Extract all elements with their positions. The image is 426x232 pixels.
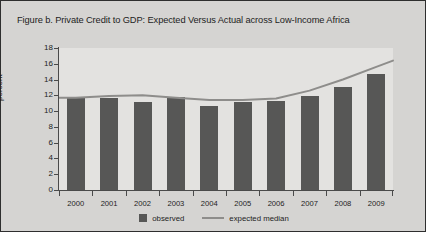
x-tick-label-2009: 2009 (361, 199, 391, 208)
x-axis-labels: 2000200120022003200420052006200720082009 (59, 191, 393, 207)
x-tick-label-2000: 2000 (61, 199, 91, 208)
y-tick-label: 10 (37, 107, 53, 115)
x-tick-label-2007: 2007 (295, 199, 325, 208)
y-tick (54, 174, 59, 175)
y-axis-labels: 024681012141618 (37, 48, 53, 190)
x-tick-label-2008: 2008 (328, 199, 358, 208)
x-tick-label-2005: 2005 (228, 199, 258, 208)
y-tick (54, 143, 59, 144)
legend-line-icon (202, 217, 224, 219)
expected-median-line (59, 48, 393, 190)
y-tick (54, 48, 59, 49)
y-tick (54, 80, 59, 81)
legend-item-observed: observed (139, 214, 184, 223)
x-tick-label-2004: 2004 (194, 199, 224, 208)
x-tick-label-2006: 2006 (261, 199, 291, 208)
x-tick-label-2002: 2002 (128, 199, 158, 208)
legend-label-expected-median: expected median (229, 214, 288, 223)
y-tick-label: 0 (37, 186, 53, 194)
legend-square-icon (139, 214, 147, 222)
y-tick (54, 158, 59, 159)
x-tick-label-2003: 2003 (161, 199, 191, 208)
figure-title: Figure b. Private Credit to GDP: Expecte… (17, 15, 350, 25)
legend-item-expected-median: expected median (202, 214, 288, 223)
y-axis-title: percent (0, 74, 4, 101)
y-tick-label: 18 (37, 44, 53, 52)
y-tick-label: 6 (37, 139, 53, 147)
y-tick-label: 16 (37, 60, 53, 68)
y-tick (54, 111, 59, 112)
y-tick-label: 14 (37, 76, 53, 84)
chart-legend: observed expected median (1, 211, 426, 225)
y-tick (54, 64, 59, 65)
y-tick-label: 2 (37, 170, 53, 178)
plot-area (59, 48, 393, 190)
y-tick (54, 95, 59, 96)
y-tick-label: 12 (37, 91, 53, 99)
y-tick-label: 8 (37, 123, 53, 131)
y-tick (54, 127, 59, 128)
legend-label-observed: observed (152, 214, 184, 223)
y-tick-label: 4 (37, 154, 53, 162)
x-tick-label-2001: 2001 (94, 199, 124, 208)
figure-panel: Figure b. Private Credit to GDP: Expecte… (0, 0, 426, 232)
y-axis-ticks (59, 48, 64, 190)
